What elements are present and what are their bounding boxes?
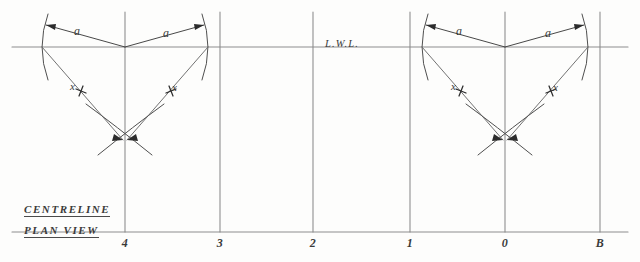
waterline-label: L.W.L. (325, 38, 359, 49)
radius-line-left-4 (42, 47, 123, 140)
station-label-1: 1 (407, 236, 413, 251)
dimension-label-a-right-4: a (163, 26, 169, 41)
scribe-arc-left-0 (466, 104, 532, 155)
station-label-0: 0 (502, 236, 508, 251)
lofting-drawing-sheet: L.W.L. a a a a x x x x 4 3 2 1 0 B CENTR… (0, 0, 640, 262)
dimension-arrowhead-left-0 (426, 24, 436, 30)
dimension-line-left-0 (426, 25, 505, 47)
dimension-arrowhead-right-0 (574, 24, 584, 30)
station-label-B: B (596, 236, 604, 251)
radius-line-right-0 (507, 47, 588, 140)
dimension-arrowhead-left-4 (46, 24, 56, 30)
caption-centreline: CENTRELINE (24, 203, 110, 217)
radius-label-x-left-4: x (70, 80, 75, 92)
station-label-3: 3 (217, 236, 223, 251)
scribe-arc-left-4 (86, 104, 152, 155)
dimension-label-a-left-0: a (456, 24, 462, 39)
dimension-label-a-left-4: a (74, 24, 80, 39)
radius-line-left-0 (422, 47, 503, 140)
station-label-4: 4 (122, 236, 128, 251)
scribe-arc-right-0 (478, 104, 544, 155)
scribe-arc-right-4 (98, 104, 164, 155)
radius-label-x-left-0: x (451, 80, 456, 92)
radius-label-x-right-0: x (553, 81, 558, 93)
dimension-arrowhead-right-4 (194, 24, 204, 30)
caption-plan-view: PLAN VIEW (24, 224, 99, 238)
radius-line-right-4 (127, 47, 208, 140)
station-label-2: 2 (310, 236, 316, 251)
drawing-canvas (0, 0, 640, 262)
radius-label-x-right-4: x (172, 81, 177, 93)
dimension-label-a-right-0: a (545, 26, 551, 41)
dimension-line-left-4 (46, 25, 125, 47)
